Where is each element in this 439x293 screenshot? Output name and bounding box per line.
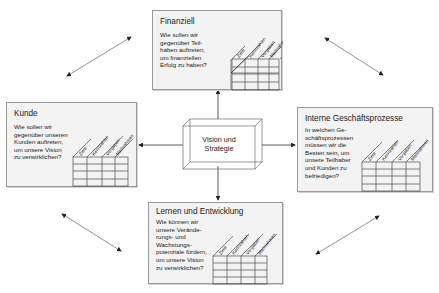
center-label-line1: Vision und <box>186 135 252 144</box>
center-label: Vision und Strategie <box>186 135 252 153</box>
center-label-line2: Strategie <box>186 144 252 153</box>
